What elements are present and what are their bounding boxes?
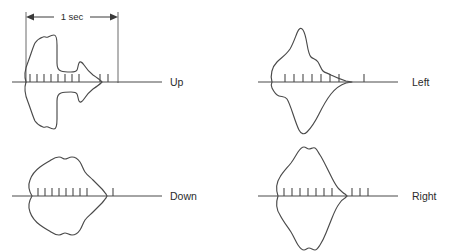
scale-bar-right-arrowhead-icon bbox=[110, 14, 118, 21]
trace-label-right: Right bbox=[412, 190, 437, 202]
trace-label-down: Down bbox=[170, 190, 197, 202]
trace-label-up: Up bbox=[170, 76, 184, 88]
waveform-envelope-right bbox=[277, 147, 347, 250]
eye-movement-waveform-figure: 1 sec UpLeftDownRight bbox=[0, 0, 450, 251]
scale-bar-left-arrowhead-icon bbox=[26, 14, 34, 21]
waveform-panel-right: Right bbox=[258, 147, 437, 250]
trace-label-left: Left bbox=[412, 76, 430, 88]
waveform-panel-down: Down bbox=[12, 157, 197, 235]
figure-canvas: 1 sec UpLeftDownRight bbox=[0, 0, 450, 251]
waveform-panels: UpLeftDownRight bbox=[12, 28, 437, 250]
tick-group-up bbox=[30, 74, 108, 82]
waveform-panel-left: Left bbox=[258, 28, 430, 133]
tick-group-right bbox=[284, 188, 368, 196]
scale-bar-label: 1 sec bbox=[61, 11, 84, 22]
waveform-panel-up: Up bbox=[12, 35, 184, 129]
tick-group-left bbox=[285, 74, 364, 82]
